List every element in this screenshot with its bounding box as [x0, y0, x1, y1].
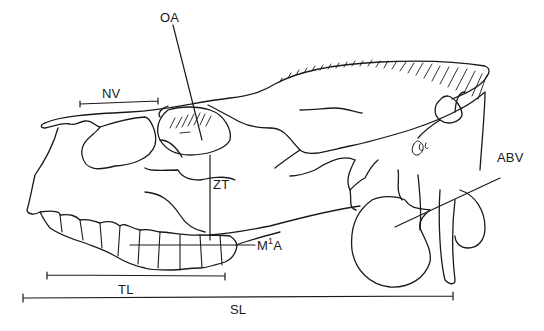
- cranial-hatching: [280, 60, 486, 99]
- tympanic-bulla: [352, 197, 431, 287]
- label-m1a-tail: A: [273, 238, 282, 253]
- skull-measurement-diagram: OA NV ZT M1A ABV TL SL: [0, 0, 544, 331]
- occipital-rear: [462, 92, 485, 170]
- mastoid-bulla: [455, 190, 485, 248]
- rostrum-front: [27, 128, 58, 214]
- orbit-inner: [160, 140, 182, 157]
- auditory-foramen: [412, 141, 428, 155]
- lower-maxilla: [145, 192, 205, 232]
- label-tl: TL: [118, 283, 134, 296]
- temporal-line: [275, 108, 362, 168]
- nasal-opening: [82, 117, 156, 169]
- squamosal-line: [290, 158, 355, 176]
- sl-bar: [23, 292, 453, 302]
- occipital-window: [435, 96, 462, 123]
- tl-bar: [47, 272, 225, 280]
- bulla-front: [398, 170, 421, 230]
- label-oa: OA: [160, 11, 179, 24]
- label-nv: NV: [102, 87, 120, 100]
- paroccipital-process: [439, 190, 455, 284]
- zygomatic-arch: [210, 206, 360, 235]
- label-m1a-sup: 1: [268, 236, 273, 246]
- ear-region: [350, 160, 378, 190]
- skull-drawing: [0, 0, 544, 331]
- label-m1a-main: M: [257, 238, 268, 253]
- zygomatic-upper: [270, 108, 462, 153]
- label-sl: SL: [230, 303, 246, 316]
- orbit-rim-top: [208, 105, 270, 128]
- label-m1a: M1A: [257, 238, 282, 252]
- orbit-hatching: [170, 113, 211, 133]
- oa-pointer: [173, 25, 202, 140]
- label-zt: ZT: [213, 178, 229, 191]
- rostrum-outline: [41, 121, 100, 128]
- label-abv: ABV: [497, 151, 524, 164]
